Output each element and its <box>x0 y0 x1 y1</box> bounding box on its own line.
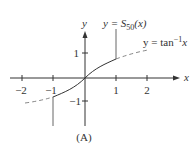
y-tick-label-1: 1 <box>74 47 80 59</box>
y-tick-label-neg1: −1 <box>69 95 81 107</box>
x-axis-arrow-icon <box>173 76 180 81</box>
arctan-curve-left-dashed <box>25 97 53 103</box>
x-tick-label-1: 1 <box>113 84 119 96</box>
s50-label: y = S50(x) <box>102 17 147 32</box>
arctan-label: y = tan−1x <box>143 35 187 48</box>
y-axis-label: y <box>81 17 87 29</box>
y-axis-arrow-icon <box>83 31 88 38</box>
x-tick-label-2: 2 <box>144 84 150 96</box>
x-tick-label-neg2: −2 <box>15 84 27 96</box>
figure-caption: (A) <box>76 131 92 144</box>
x-axis-label: x <box>183 71 189 83</box>
x-tick-label-neg1: −1 <box>45 84 57 96</box>
chart-figure: −2 −1 1 2 1 −1 x y y = S50(x) y = tan−1x… <box>0 0 194 151</box>
arctan-curve-right-dashed <box>116 50 148 59</box>
